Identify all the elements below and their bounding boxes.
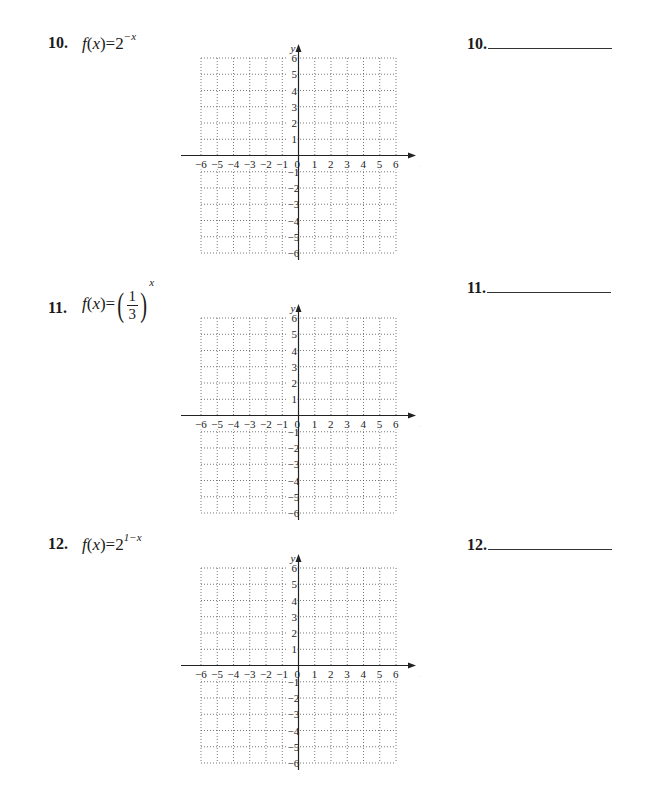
x-tick-label: 5 — [377, 668, 383, 680]
function-expression: f(x)=(13)x — [82, 286, 154, 324]
y-tick-label: −1 — [288, 166, 300, 178]
y-tick-label: −5 — [288, 231, 300, 243]
y-tick-label: 5 — [292, 578, 298, 590]
x-tick-label: −6 — [195, 668, 207, 680]
x-tick-label: −5 — [211, 668, 223, 680]
y-tick-label: 1 — [292, 133, 298, 145]
y-tick-label: −4 — [288, 475, 300, 487]
x-tick-label: −5 — [211, 418, 223, 430]
x-tick-label: 2 — [328, 158, 334, 170]
y-tick-label: −1 — [288, 676, 300, 688]
problem-number: 12. — [48, 535, 68, 553]
y-tick-label: −5 — [288, 741, 300, 753]
x-tick-label: 5 — [377, 158, 383, 170]
y-tick-label: −5 — [288, 491, 300, 503]
x-tick-label: −2 — [260, 158, 272, 170]
coordinate-grid[interactable]: yx−6−5−4−3−2−10123456654321−1−2−3−4−5−6 — [180, 530, 420, 770]
y-tick-label: −3 — [288, 198, 300, 210]
x-tick-label: 4 — [361, 668, 367, 680]
x-tick-label: −3 — [244, 668, 256, 680]
x-tick-label: 1 — [312, 418, 318, 430]
x-tick-label: −1 — [276, 418, 288, 430]
y-tick-label: −3 — [288, 708, 300, 720]
y-tick-label: −2 — [288, 692, 300, 704]
answer-line-11[interactable]: 11. — [467, 278, 611, 297]
y-tick-label: 1 — [292, 643, 298, 655]
x-tick-label: 6 — [393, 418, 399, 430]
y-tick-label: −2 — [288, 182, 300, 194]
y-tick-label: 5 — [292, 328, 298, 340]
function-expression: f(x)=2−x — [82, 32, 136, 54]
problem-number: 11. — [48, 299, 67, 317]
x-tick-label: −6 — [195, 418, 207, 430]
x-tick-label: −4 — [228, 158, 240, 170]
coordinate-grid[interactable]: yx−6−5−4−3−2−10123456654321−1−2−3−4−5−6 — [180, 280, 420, 520]
x-tick-label: 1 — [312, 668, 318, 680]
x-axis-label: x — [419, 417, 420, 429]
x-tick-label: −3 — [244, 418, 256, 430]
x-tick-label: −5 — [211, 158, 223, 170]
y-tick-label: 1 — [292, 393, 298, 405]
problem-number: 10. — [48, 34, 68, 52]
x-tick-label: 6 — [393, 668, 399, 680]
x-tick-label: 2 — [328, 668, 334, 680]
y-tick-label: −6 — [288, 507, 300, 519]
y-tick-label: 2 — [292, 627, 298, 639]
y-tick-label: 6 — [292, 312, 298, 324]
y-tick-label: 2 — [292, 117, 298, 129]
x-tick-label: 3 — [344, 418, 350, 430]
x-tick-label: 5 — [377, 418, 383, 430]
x-tick-label: 4 — [361, 418, 367, 430]
x-axis-label: x — [419, 667, 420, 679]
y-tick-label: 6 — [292, 562, 298, 574]
x-tick-label: −6 — [195, 158, 207, 170]
y-tick-label: 6 — [292, 52, 298, 64]
x-tick-label: −1 — [276, 158, 288, 170]
x-tick-label: −3 — [244, 158, 256, 170]
y-tick-label: 3 — [292, 101, 298, 113]
x-tick-label: 2 — [328, 418, 334, 430]
y-tick-label: 4 — [292, 595, 298, 607]
x-tick-label: 4 — [361, 158, 367, 170]
y-tick-label: −1 — [288, 426, 300, 438]
y-axis-arrow-icon — [296, 554, 302, 562]
y-tick-label: 2 — [292, 377, 298, 389]
x-axis-label: x — [419, 157, 420, 169]
x-tick-label: 1 — [312, 158, 318, 170]
function-expression: f(x)=21−x — [82, 533, 142, 555]
x-tick-label: 6 — [393, 158, 399, 170]
y-tick-label: 3 — [292, 361, 298, 373]
y-axis-arrow-icon — [296, 304, 302, 312]
y-tick-label: 4 — [292, 345, 298, 357]
x-tick-label: −4 — [228, 668, 240, 680]
y-tick-label: −6 — [288, 247, 300, 259]
y-tick-label: −2 — [288, 442, 300, 454]
y-tick-label: 3 — [292, 611, 298, 623]
y-tick-label: 5 — [292, 68, 298, 80]
x-tick-label: −2 — [260, 668, 272, 680]
y-axis-arrow-icon — [296, 44, 302, 52]
y-tick-label: −4 — [288, 215, 300, 227]
x-tick-label: −1 — [276, 668, 288, 680]
x-tick-label: −2 — [260, 418, 272, 430]
y-tick-label: −6 — [288, 757, 300, 769]
y-tick-label: −3 — [288, 458, 300, 470]
answer-line-12[interactable]: 12. — [467, 535, 612, 554]
y-tick-label: 4 — [292, 85, 298, 97]
x-tick-label: −4 — [228, 418, 240, 430]
x-tick-label: 3 — [344, 158, 350, 170]
x-tick-label: 3 — [344, 668, 350, 680]
answer-line-10[interactable]: 10. — [467, 34, 612, 53]
y-tick-label: −4 — [288, 725, 300, 737]
coordinate-grid[interactable]: yx−6−5−4−3−2−10123456654321−1−2−3−4−5−6 — [180, 20, 420, 260]
